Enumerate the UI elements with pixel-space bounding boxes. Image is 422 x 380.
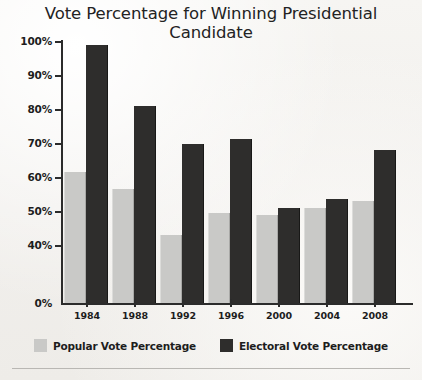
chart-title-line-2: Candidate (8, 23, 414, 42)
bar-popular-2004[interactable] (304, 208, 326, 303)
x-tick-1992 (182, 299, 184, 307)
bar-group-1992 (160, 42, 204, 303)
bar-group-2004 (304, 42, 348, 303)
chart-title-line-1: Vote Percentage for Winning Presidential (45, 4, 377, 23)
y-tick-label-0: 0% (6, 297, 52, 309)
x-tick-label-2000: 2000 (255, 310, 303, 321)
bar-electoral-1984[interactable] (86, 45, 108, 303)
chart-title: Vote Percentage for Winning Presidential… (8, 4, 414, 42)
bar-electoral-2004[interactable] (326, 199, 348, 303)
legend-swatch-electoral-icon (220, 339, 233, 352)
y-tick-label-60: 60% (6, 171, 52, 183)
bar-popular-1992[interactable] (160, 235, 182, 303)
bar-electoral-2000[interactable] (278, 208, 300, 303)
x-tick-2004 (326, 299, 328, 307)
x-tick-label-1992: 1992 (159, 310, 207, 321)
legend-swatch-popular-icon (34, 339, 47, 352)
y-tick-label-90: 90% (6, 69, 52, 81)
bar-popular-1984[interactable] (64, 172, 86, 303)
y-tick-label-40: 40% (6, 239, 52, 251)
page-divider-rule (12, 368, 410, 369)
y-tick-label-70: 70% (6, 137, 52, 149)
bar-popular-2008[interactable] (352, 201, 374, 303)
x-tick-2008 (374, 299, 376, 307)
legend-label-electoral: Electoral Vote Percentage (239, 340, 388, 352)
bar-group-1988 (112, 42, 156, 303)
bar-group-1996 (208, 42, 252, 303)
bar-group-2000 (256, 42, 300, 303)
bar-electoral-1988[interactable] (134, 106, 156, 303)
plot-area (62, 42, 412, 303)
y-tick-label-50: 50% (6, 205, 52, 217)
x-tick-label-1984: 1984 (63, 310, 111, 321)
chart-figure: Vote Percentage for Winning Presidential… (0, 0, 422, 380)
bar-electoral-2008[interactable] (374, 150, 396, 303)
x-tick-label-2008: 2008 (351, 310, 399, 321)
x-tick-1988 (134, 299, 136, 307)
bar-popular-1996[interactable] (208, 213, 230, 303)
chart-legend: Popular Vote Percentage Electoral Vote P… (0, 339, 422, 352)
y-tick-label-80: 80% (6, 103, 52, 115)
legend-item-popular[interactable]: Popular Vote Percentage (34, 339, 196, 352)
bar-electoral-1996[interactable] (230, 139, 252, 303)
x-tick-label-2004: 2004 (303, 310, 351, 321)
bar-popular-2000[interactable] (256, 215, 278, 303)
x-tick-1984 (86, 299, 88, 307)
legend-label-popular: Popular Vote Percentage (53, 340, 196, 352)
x-tick-2000 (278, 299, 280, 307)
bar-popular-1988[interactable] (112, 189, 134, 303)
legend-item-electoral[interactable]: Electoral Vote Percentage (220, 339, 388, 352)
x-tick-label-1988: 1988 (111, 310, 159, 321)
y-tick-label-100: 100% (6, 35, 52, 47)
bar-group-2008 (352, 42, 396, 303)
x-axis-line (61, 303, 413, 305)
x-tick-1996 (230, 299, 232, 307)
x-tick-label-1996: 1996 (207, 310, 255, 321)
bar-group-1984 (64, 42, 108, 303)
bar-electoral-1992[interactable] (182, 144, 204, 303)
